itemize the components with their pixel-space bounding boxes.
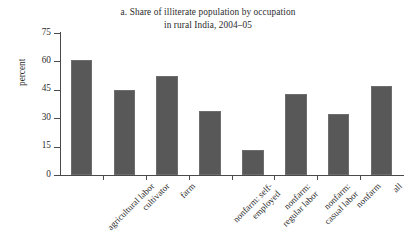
x-axis-tick	[360, 176, 361, 181]
chart-title-line-2: in rural India, 2004–05	[58, 19, 358, 32]
chart-title-line-1: a. Share of illiterate population by occ…	[58, 6, 358, 19]
y-axis-tick: 0	[54, 175, 60, 176]
y-axis-tick-label: 15	[42, 140, 51, 150]
x-axis-tick	[103, 176, 104, 181]
y-axis-tick-label: 0	[46, 169, 51, 179]
x-axis-label: nonfarm:casual labor	[314, 181, 359, 226]
y-axis-tick-label: 60	[42, 55, 51, 65]
bar	[285, 94, 307, 175]
x-axis-tick	[274, 176, 275, 181]
bar	[156, 76, 178, 175]
y-axis-title: percent	[17, 59, 27, 86]
x-axis-label: nonfarm:regular labor	[272, 181, 320, 229]
x-axis-label: all	[390, 181, 404, 195]
bar	[114, 90, 136, 175]
y-axis-tick-label: 30	[42, 112, 51, 122]
x-axis-label-line: farm	[178, 181, 197, 200]
plot-area	[60, 33, 403, 175]
x-axis-tick	[146, 176, 147, 181]
chart-figure: a. Share of illiterate population by occ…	[0, 0, 416, 250]
x-axis-tick	[232, 176, 233, 181]
bar	[371, 86, 393, 175]
bar	[328, 114, 350, 175]
y-axis-tick-label: 45	[42, 83, 51, 93]
chart-title: a. Share of illiterate population by occ…	[58, 6, 358, 31]
x-axis-label: nonfarm: self-employed	[231, 181, 282, 232]
x-axis-tick	[317, 176, 318, 181]
x-axis-label-line: all	[390, 181, 404, 195]
x-axis-label: farm	[178, 181, 197, 200]
bar	[199, 111, 221, 175]
bar	[71, 60, 93, 175]
bar	[242, 150, 264, 175]
y-axis-tick-label: 75	[42, 27, 51, 37]
x-axis-tick	[189, 176, 190, 181]
